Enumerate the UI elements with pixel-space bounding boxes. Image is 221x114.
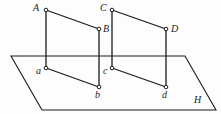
vertices-group: [44, 8, 168, 89]
point-label-A: A: [33, 3, 39, 13]
plane-h-polygon: [11, 56, 216, 110]
point-label-D: D: [171, 24, 178, 34]
figure-canvas: [0, 0, 221, 114]
segment-ab: [46, 68, 99, 87]
vertex-c: [110, 66, 114, 70]
vertex-B: [97, 27, 101, 31]
point-label-d: d: [162, 90, 167, 100]
vertex-a: [44, 66, 48, 70]
point-label-a: a: [36, 66, 41, 76]
vertex-A: [44, 8, 48, 12]
segment-CD: [112, 10, 166, 29]
geometry-figure: ABCDabcd H: [0, 0, 221, 114]
point-label-c: c: [103, 66, 107, 76]
plane-h-label: H: [194, 95, 201, 105]
segment-AB: [46, 10, 99, 29]
point-label-B: B: [103, 24, 109, 34]
point-label-b: b: [95, 90, 100, 100]
vertex-D: [164, 27, 168, 31]
vertex-C: [110, 8, 114, 12]
point-label-C: C: [100, 3, 107, 13]
segment-cd: [112, 68, 166, 87]
